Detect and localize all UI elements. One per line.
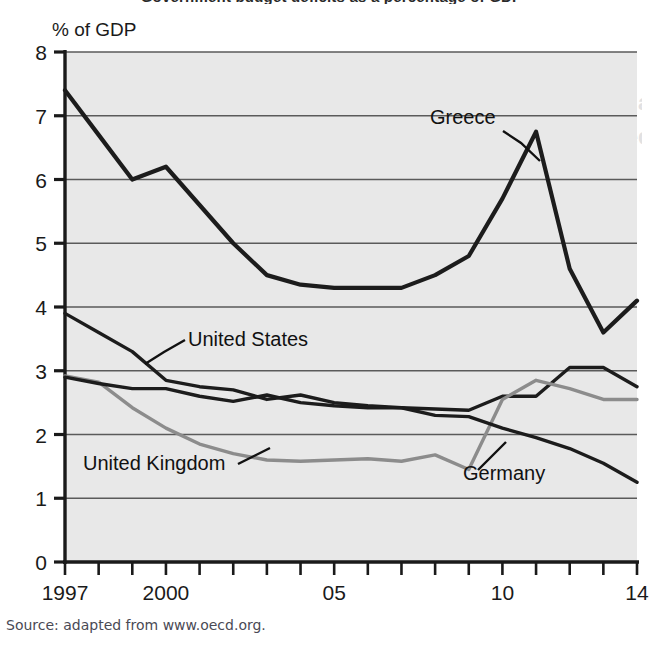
x-tick-labels: 19972000051014 <box>42 581 649 604</box>
y-tick-label: 4 <box>35 296 47 319</box>
x-tick-label: 10 <box>491 581 514 604</box>
y-tick-label: 2 <box>35 424 47 447</box>
figure-container: Government budget deficits as a percenta… <box>0 0 663 650</box>
x-tick-label: 2000 <box>143 581 190 604</box>
x-axis <box>63 562 639 575</box>
x-tick-label: 05 <box>322 581 345 604</box>
y-tick-label: 0 <box>35 551 47 574</box>
series-label-germany: Germany <box>463 462 545 484</box>
series-label-united-states: United States <box>188 328 308 350</box>
y-tick-labels: 012345678 <box>35 41 47 574</box>
y-tick-label: 6 <box>35 169 47 192</box>
series-label-greece: Greece <box>430 106 496 128</box>
y-tick-label: 1 <box>35 487 47 510</box>
y-tick-label: 3 <box>35 360 47 383</box>
x-tick-label: 1997 <box>42 581 89 604</box>
y-axis-unit-label: % of GDP <box>52 19 136 40</box>
series-label-united-kingdom: United Kingdom <box>83 452 225 474</box>
y-tick-label: 8 <box>35 41 47 64</box>
x-tick-label: 14 <box>625 581 649 604</box>
y-tick-label: 7 <box>35 105 47 128</box>
line-chart: 012345678 19972000051014 % of GDP Greece… <box>0 0 663 650</box>
source-note: Source: adapted from www.oecd.org. <box>6 617 266 633</box>
y-tick-label: 5 <box>35 232 47 255</box>
y-axis <box>54 50 65 564</box>
